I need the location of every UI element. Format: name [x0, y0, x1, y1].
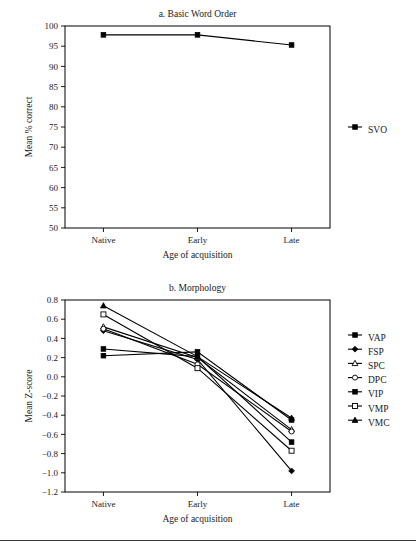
figure-panel-group: a. Basic Word Order505560657075808590951… — [0, 0, 416, 556]
chart-title: b. Morphology — [169, 283, 226, 293]
legend-label-fsp: FSP — [368, 347, 384, 357]
y-tick-label: 95 — [49, 41, 59, 51]
series-line-spc — [103, 327, 291, 430]
y-tick-label: 100 — [45, 21, 59, 31]
chart-panel-a: a. Basic Word Order505560657075808590951… — [0, 0, 416, 268]
legend-label-vip: VIP — [368, 389, 383, 399]
y-tick-label: 70 — [49, 142, 59, 152]
x-tick-label: Native — [91, 499, 115, 509]
y-tick-label: 80 — [49, 102, 59, 112]
x-tick-label: Late — [284, 499, 300, 509]
data-point-marker — [353, 375, 358, 380]
y-tick-label: −0.2 — [42, 391, 58, 401]
data-point-marker — [353, 125, 358, 130]
y-tick-label: 0.8 — [47, 295, 59, 305]
footer-rule — [0, 540, 416, 541]
plot-frame — [65, 26, 330, 228]
legend-label-svo: SVO — [368, 125, 387, 135]
y-tick-label: 85 — [49, 82, 59, 92]
data-point-marker — [195, 366, 200, 371]
data-point-marker — [101, 353, 106, 358]
data-point-marker — [101, 326, 106, 331]
data-point-marker — [195, 33, 200, 38]
y-tick-label: 90 — [49, 62, 59, 72]
y-tick-label: −0.6 — [42, 430, 59, 440]
legend-label-vap: VAP — [368, 333, 386, 343]
data-point-marker — [101, 312, 106, 317]
y-tick-label: −1.2 — [42, 487, 58, 497]
y-tick-label: 55 — [49, 203, 59, 213]
x-tick-label: Early — [188, 235, 208, 245]
y-axis-title: Mean Z-score — [24, 369, 34, 422]
data-point-marker — [352, 346, 358, 352]
x-axis-title: Age of acquisition — [162, 250, 232, 260]
y-tick-label: 0.6 — [47, 314, 59, 324]
data-point-marker — [289, 429, 294, 434]
x-axis-title: Age of acquisition — [162, 514, 232, 524]
y-tick-label: −1.0 — [42, 468, 59, 478]
data-point-marker — [101, 303, 107, 308]
legend-label-dpc: DPC — [368, 375, 386, 385]
y-tick-label: 75 — [49, 122, 59, 132]
x-tick-label: Early — [188, 499, 208, 509]
x-tick-label: Late — [284, 235, 300, 245]
data-point-marker — [289, 448, 294, 453]
data-point-marker — [101, 33, 106, 38]
data-point-marker — [353, 333, 358, 338]
morphology-chart: b. Morphology0.80.60.40.20.0−0.2−0.4−0.6… — [0, 278, 416, 528]
y-tick-label: −0.8 — [42, 449, 59, 459]
y-tick-label: 0.0 — [47, 372, 59, 382]
legend-label-vmp: VMP — [368, 404, 389, 414]
y-tick-label: 60 — [49, 183, 59, 193]
series-line-vmp — [103, 314, 291, 450]
legend-label-spc: SPC — [368, 361, 385, 371]
chart-title: a. Basic Word Order — [159, 9, 238, 19]
y-tick-label: 65 — [49, 163, 59, 173]
legend-label-vmc: VMC — [368, 418, 390, 428]
data-point-marker — [353, 390, 358, 395]
data-point-marker — [289, 43, 294, 48]
basic-word-order-chart: a. Basic Word Order505560657075808590951… — [0, 0, 416, 268]
y-tick-label: 0.4 — [47, 334, 59, 344]
data-point-marker — [101, 347, 106, 352]
data-point-marker — [289, 440, 294, 445]
x-tick-label: Native — [91, 235, 115, 245]
data-point-marker — [353, 404, 358, 409]
y-tick-label: −0.4 — [42, 410, 59, 420]
y-tick-label: 50 — [49, 223, 59, 233]
chart-panel-b: b. Morphology0.80.60.40.20.0−0.2−0.4−0.6… — [0, 278, 416, 528]
y-tick-label: 0.2 — [47, 353, 58, 363]
y-axis-title: Mean % correct — [24, 96, 34, 157]
